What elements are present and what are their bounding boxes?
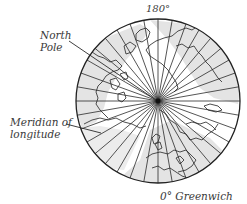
polar-globe-diagram <box>0 0 247 204</box>
north-pole-point <box>156 99 161 104</box>
